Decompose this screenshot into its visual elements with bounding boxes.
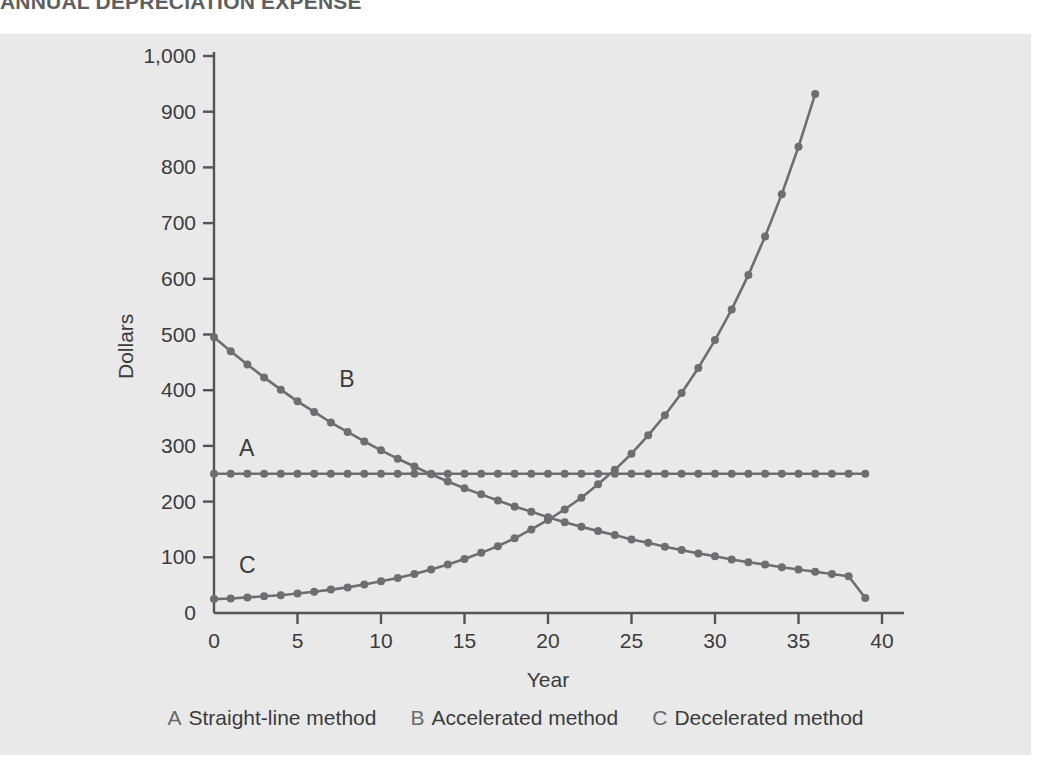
x-tick-label: 0 [208,629,220,653]
y-tick-label: 600 [161,267,196,291]
x-tick-label: 10 [369,629,392,653]
legend-label-a: Straight-line method [188,706,376,730]
legend-label-c: Decelerated method [674,706,863,730]
y-tick-label: 400 [161,378,196,402]
y-tick-label: 800 [161,155,196,179]
legend-label-b: Accelerated method [431,706,618,730]
chart-legend: A Straight-line method B Accelerated met… [0,706,1031,730]
y-tick-label: 200 [161,490,196,514]
y-tick-label: 900 [161,100,196,124]
x-tick-label: 25 [620,629,643,653]
page-root: ANNUAL DEPRECIATION EXPENSE Dollars Year… [0,0,1043,778]
x-tick-label: 15 [453,629,476,653]
legend-key-b: B [410,706,424,730]
title-band: ANNUAL DEPRECIATION EXPENSE [0,0,1043,20]
y-tick-label: 0 [184,601,196,625]
figure-panel: Dollars Year 010020030040050060070080090… [0,34,1031,755]
x-tick-label: 30 [703,629,726,653]
x-tick-label: 40 [870,629,893,653]
y-tick-label: 1,000 [143,44,196,68]
series-c [210,90,819,603]
y-tick-label: 100 [161,545,196,569]
page-title: ANNUAL DEPRECIATION EXPENSE [0,0,362,14]
plot-area: Dollars Year 010020030040050060070080090… [0,34,1031,755]
x-tick-label: 35 [787,629,810,653]
x-axis-ticks [298,613,883,624]
series-a [210,470,869,478]
series-tag-b: B [339,366,354,393]
legend-key-a: A [167,706,181,730]
x-axis-label: Year [527,668,569,692]
y-tick-label: 500 [161,323,196,347]
series-tag-a: A [239,435,254,462]
y-tick-label: 700 [161,211,196,235]
x-tick-label: 20 [536,629,559,653]
legend-key-c: C [652,706,667,730]
y-axis-label: Dollars [114,314,138,379]
y-axis-ticks [203,56,214,557]
legend-item-c: C Decelerated method [652,706,863,730]
series-b [210,333,869,602]
series-tag-c: C [239,552,256,579]
y-tick-label: 300 [161,434,196,458]
x-tick-label: 5 [292,629,304,653]
legend-item-a: A Straight-line method [167,706,376,730]
legend-item-b: B Accelerated method [410,706,618,730]
